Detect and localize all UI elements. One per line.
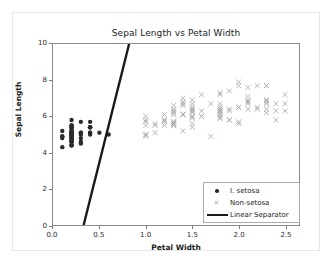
data-point-setosa: [88, 131, 92, 135]
data-point-non-setosa: [199, 92, 204, 97]
y-tick-mark: [49, 116, 52, 117]
data-point-setosa: [88, 120, 92, 124]
y-tick-mark: [49, 226, 52, 227]
data-point-non-setosa: [283, 92, 288, 97]
data-point-non-setosa: [273, 108, 278, 113]
y-tick-label: 4: [28, 149, 47, 157]
data-point-setosa: [69, 132, 73, 136]
y-tick-label: 10: [28, 39, 47, 47]
legend-item-non-setosa: ✕ Non-setosa: [204, 197, 299, 209]
y-tick-label: 2: [28, 185, 47, 193]
data-point-non-setosa: [264, 83, 269, 88]
y-tick-mark: [49, 189, 52, 190]
data-point-non-setosa: [264, 110, 269, 115]
data-point-non-setosa: [236, 105, 241, 110]
data-point-non-setosa: [255, 83, 260, 88]
data-point-non-setosa: [180, 128, 185, 133]
data-point-setosa: [88, 125, 92, 129]
data-point-setosa: [79, 141, 83, 145]
x-tick-label: 2.0: [234, 231, 245, 239]
chart-title: Sepal Length vs Petal Width: [52, 28, 300, 38]
data-point-setosa: [97, 131, 101, 135]
data-point-non-setosa: [190, 125, 195, 130]
legend-label: Non-setosa: [230, 199, 269, 207]
legend: I. setosa ✕ Non-setosa Linear Separator: [203, 182, 300, 223]
data-point-non-setosa: [190, 101, 195, 106]
legend-label: I. setosa: [230, 187, 259, 195]
data-point-non-setosa: [199, 108, 204, 113]
data-point-non-setosa: [245, 107, 250, 112]
data-point-non-setosa: [208, 134, 213, 139]
y-tick-label: 6: [28, 112, 47, 120]
x-tick-label: 0.0: [46, 231, 57, 239]
data-point-non-setosa: [245, 85, 250, 90]
figure: Sepal Length vs Petal Width Sepal Length…: [0, 0, 333, 265]
data-point-setosa: [60, 145, 64, 149]
data-point-setosa: [60, 134, 64, 138]
x-tick-label: 1.0: [140, 231, 151, 239]
x-tick-mark: [286, 226, 287, 229]
data-point-non-setosa: [227, 118, 232, 123]
y-axis-label: Sepal Length: [14, 65, 23, 155]
x-tick-mark: [52, 226, 53, 229]
x-tick-mark: [99, 226, 100, 229]
data-point-non-setosa: [283, 108, 288, 113]
data-point-non-setosa: [283, 101, 288, 106]
data-point-setosa: [79, 120, 83, 124]
data-point-non-setosa: [227, 89, 232, 94]
y-tick-label: 0: [28, 222, 47, 230]
line-swatch-icon: [204, 209, 230, 221]
circle-marker-icon: [204, 185, 230, 197]
x-tick-mark: [146, 226, 147, 229]
data-point-non-setosa: [236, 80, 241, 85]
x-tick-label: 1.5: [187, 231, 198, 239]
data-point-non-setosa: [199, 114, 204, 119]
y-tick-mark: [49, 80, 52, 81]
x-axis-label: Petal Width: [52, 243, 300, 252]
data-point-setosa: [79, 136, 83, 140]
data-point-non-setosa: [162, 112, 167, 117]
data-point-setosa: [69, 127, 73, 131]
y-tick-label: 8: [28, 76, 47, 84]
data-point-non-setosa: [273, 118, 278, 123]
data-point-setosa: [69, 118, 73, 122]
data-point-setosa: [60, 129, 64, 133]
data-point-non-setosa: [180, 112, 185, 117]
data-point-setosa: [69, 140, 73, 144]
y-tick-mark: [49, 43, 52, 44]
legend-item-setosa: I. setosa: [204, 185, 299, 197]
x-tick-mark: [192, 226, 193, 229]
legend-item-separator: Linear Separator: [204, 209, 299, 221]
data-point-non-setosa: [153, 130, 158, 135]
y-tick-mark: [49, 153, 52, 154]
x-tick-mark: [239, 226, 240, 229]
x-tick-label: 0.5: [93, 231, 104, 239]
x-marker-icon: ✕: [204, 197, 230, 209]
data-point-non-setosa: [208, 101, 213, 106]
x-tick-label: 2.5: [280, 231, 291, 239]
legend-label: Linear Separator: [230, 211, 289, 219]
data-point-non-setosa: [143, 123, 148, 128]
data-point-non-setosa: [273, 101, 278, 106]
